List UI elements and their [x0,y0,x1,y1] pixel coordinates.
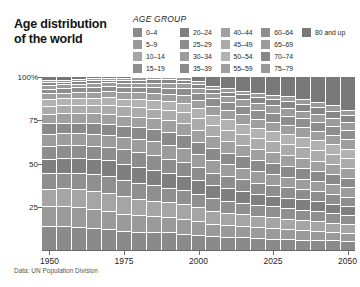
bar-segment [311,182,325,192]
bar-segment [162,174,176,189]
x-axis-tick-label: 1975 [115,256,134,266]
bar-column[interactable] [266,77,280,250]
bar-segment [72,99,86,106]
legend-item[interactable]: 10–14 [133,51,180,62]
legend-item[interactable]: 40–44 [221,27,262,38]
bar-segment [206,107,220,116]
bar-segment [147,119,161,130]
bar-segment [311,172,325,182]
bar-segment [206,137,220,149]
bar-segment [221,165,235,177]
legend-swatch-icon [180,40,189,49]
bar-column[interactable] [147,77,161,250]
bar-segment [42,124,56,135]
bar-segment [251,172,265,183]
bar-segment [162,111,176,121]
legend-item[interactable]: 20–24 [180,27,221,38]
page-title-line-1: Age distribution [14,17,132,32]
bar-segment [132,184,146,200]
legend-item[interactable]: 80 and up [302,27,355,38]
bar-segment [266,123,280,133]
bar-segment [296,241,310,250]
bar-segment [132,233,146,250]
bar-segment [251,120,265,130]
bar-column[interactable] [87,77,101,250]
bar-column[interactable] [206,77,220,250]
page-title-line-2: of the world [14,32,132,47]
bar-segment [251,161,265,172]
bar-segment [251,139,265,150]
y-axis: 100%755025 [0,70,42,250]
bar-column[interactable] [341,77,355,250]
legend-column: 40–4445–4950–5455–59 [221,27,262,74]
bar-segment [311,108,325,115]
bar-segment [311,212,325,222]
bar-segment [311,202,325,212]
bar-segment [266,218,280,229]
bar-segment [341,216,355,225]
bar-segment [192,195,206,209]
legend-swatch-icon [221,52,230,61]
bar-segment [341,131,355,140]
legend-item[interactable]: 45–49 [221,39,262,50]
legend-swatch-icon [133,52,142,61]
legend-item[interactable]: 5–9 [133,39,180,50]
legend-item[interactable]: 60–64 [261,27,302,38]
bar-segment [177,177,191,191]
bar-column[interactable] [177,77,191,250]
legend-item-label: 60–64 [274,28,293,37]
bar-column[interactable] [102,77,116,250]
bar-segment [117,150,131,164]
bar-column[interactable] [192,77,206,250]
bar-segment [162,95,176,103]
bar-segment [42,107,56,115]
bar-segment [341,179,355,189]
bar-segment [311,162,325,172]
bar-column[interactable] [72,77,86,250]
bar-segment [102,98,116,106]
bar-segment [57,227,71,250]
bar-segment [87,99,101,106]
bar-segment [281,145,295,156]
bar-segment [147,233,161,250]
legend-item[interactable]: 25–29 [180,39,221,50]
bar-column[interactable] [57,77,71,250]
legend-item[interactable]: 65–69 [261,39,302,50]
bar-segment [206,237,220,250]
bar-segment [311,141,325,151]
bar-segment [341,234,355,242]
bar-segment [281,199,295,210]
bar-column[interactable] [221,77,235,250]
bar-segment [117,117,131,127]
bar-segment [326,112,340,119]
bar-segment [326,224,340,233]
bar-column[interactable] [162,77,176,250]
legend-item[interactable]: 30–34 [180,51,221,62]
bar-segment [206,212,220,225]
bar-column[interactable] [311,77,325,250]
bar-segment [296,190,310,200]
legend-swatch-icon [221,40,230,49]
bar-segment [147,217,161,233]
bar-segment [266,164,280,175]
legend-item[interactable]: 70–74 [261,51,302,62]
bar-segment [117,100,131,108]
legend-item[interactable]: 0–4 [133,27,180,38]
bar-column[interactable] [251,77,265,250]
bar-segment [326,185,340,195]
bar-column[interactable] [296,77,310,250]
bar-column[interactable] [132,77,146,250]
legend-column: 0–45–910–1415–19 [133,27,180,74]
legend-swatch-icon [261,40,270,49]
bar-segment [206,186,220,199]
bar-segment [326,127,340,136]
bar-column[interactable] [326,77,340,250]
bar-segment [311,241,325,250]
legend-item[interactable]: 50–54 [221,51,262,62]
bar-column[interactable] [42,77,56,250]
bar-segment [42,174,56,190]
bar-column[interactable] [236,77,250,250]
bar-segment [132,108,146,117]
bar-column[interactable] [281,77,295,250]
bar-column[interactable] [117,77,131,250]
